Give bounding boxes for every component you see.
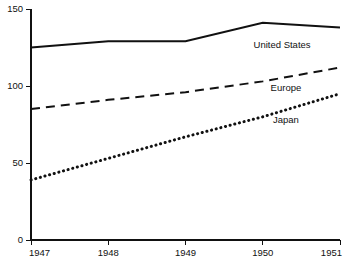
series-label-europe: Europe bbox=[271, 82, 302, 93]
y-tick-label: 100 bbox=[7, 80, 23, 91]
x-tick-label: 1949 bbox=[175, 247, 196, 258]
x-tick-label: 1948 bbox=[98, 247, 119, 258]
series-label-japan: Japan bbox=[273, 114, 299, 125]
x-tick-label: 1950 bbox=[252, 247, 273, 258]
x-tick-label: 1951 bbox=[321, 247, 342, 258]
y-axis: 050100150 bbox=[7, 3, 31, 245]
series-line-japan bbox=[31, 94, 340, 180]
y-tick-label: 150 bbox=[7, 3, 23, 14]
line-chart-plot: 050100150 19471948194919501951 United St… bbox=[0, 0, 350, 273]
x-tick-label: 1947 bbox=[29, 247, 50, 258]
chart-container: 050100150 19471948194919501951 United St… bbox=[0, 0, 350, 273]
y-tick-label: 50 bbox=[12, 157, 23, 168]
x-axis: 19471948194919501951 bbox=[29, 240, 342, 258]
y-tick-label: 0 bbox=[18, 234, 23, 245]
series-label-united-states: United States bbox=[254, 39, 311, 50]
